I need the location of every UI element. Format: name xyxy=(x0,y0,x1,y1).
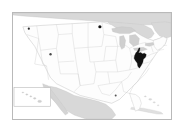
hawaii-inset[interactable] xyxy=(14,88,51,107)
us-locator-map[interactable] xyxy=(13,13,171,119)
marker-great-basin[interactable] xyxy=(49,53,51,55)
marker-pacific-northwest[interactable] xyxy=(28,28,30,30)
marker-gulf-coast[interactable] xyxy=(115,94,117,96)
map-figure: United States locator map xyxy=(0,0,189,132)
marker-upper-midwest[interactable] xyxy=(98,25,101,28)
map-frame xyxy=(12,12,172,120)
hawaii-inset-frame xyxy=(14,88,51,107)
